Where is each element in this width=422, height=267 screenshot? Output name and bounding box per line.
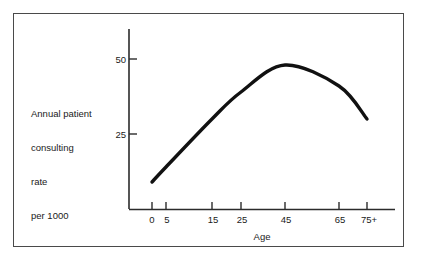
x-tick-label-15: 15 bbox=[208, 214, 219, 225]
consulting-rate-curve bbox=[152, 65, 367, 182]
x-axis-title: Age bbox=[254, 231, 271, 242]
y-tick-label-25: 25 bbox=[115, 129, 126, 140]
figure-root: Annual patient consulting rate per 1000 … bbox=[0, 0, 422, 267]
x-tick-label-65: 65 bbox=[335, 214, 346, 225]
x-tick-label-0: 0 bbox=[149, 214, 154, 225]
x-tick-label-75plus: 75+ bbox=[361, 214, 378, 225]
x-tick-label-25: 25 bbox=[237, 214, 248, 225]
x-tick-label-5: 5 bbox=[164, 214, 169, 225]
line-chart: 50 25 0 5 15 25 45 65 75+ Age bbox=[0, 0, 422, 267]
x-tick-label-45: 45 bbox=[281, 214, 292, 225]
y-tick-label-50: 50 bbox=[115, 54, 126, 65]
